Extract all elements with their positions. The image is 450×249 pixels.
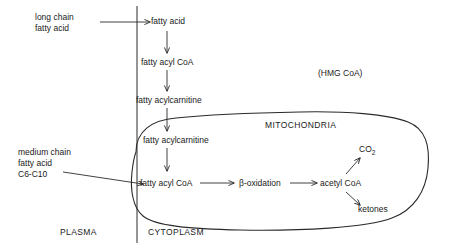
compartment-label-plasma: PLASMA: [60, 227, 97, 238]
node-fatty-acylcarnitine-cytoplasm: fatty acylcarnitine: [136, 95, 202, 106]
node-medium-chain-fatty-acid: medium chain fatty acid C6-C10: [18, 147, 71, 180]
node-hmg-coa: (HMG CoA): [318, 68, 362, 79]
node-long-chain-fatty-acid: long chain fatty acid: [35, 12, 74, 34]
diagram-canvas: long chain fatty acid fatty acid fatty a…: [0, 0, 450, 249]
node-fatty-acyl-coa-cytoplasm: fatty acyl CoA: [141, 57, 193, 68]
compartment-label-mitochondria: MITOCHONDRIA: [265, 120, 336, 131]
co2-subscript: 2: [372, 149, 376, 156]
node-ketones: ketones: [358, 204, 388, 215]
node-acetyl-coa: acetyl CoA: [320, 178, 361, 189]
node-beta-oxidation: β-oxidation: [239, 178, 281, 189]
node-fatty-acylcarnitine-mitochondria: fatty acylcarnitine: [143, 135, 209, 146]
arrow-acetylcoa-to-co2: [346, 158, 360, 174]
node-fatty-acid: fatty acid: [151, 16, 185, 27]
node-co2: CO2: [359, 144, 375, 158]
compartment-label-cytoplasm: CYTOPLASM: [148, 227, 204, 238]
co2-label: CO: [359, 144, 372, 154]
node-fatty-acyl-coa-mitochondria: fatty acyl CoA: [140, 178, 192, 189]
